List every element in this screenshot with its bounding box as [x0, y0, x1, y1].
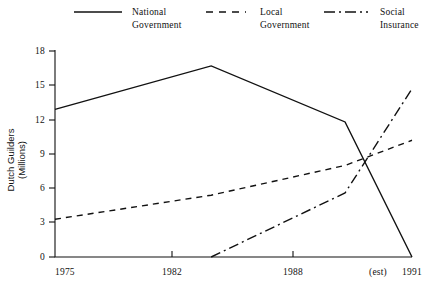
series-line-national-government	[55, 66, 412, 257]
y-axis-ticks: 18 15 12 9 6 3 0	[35, 46, 55, 262]
series-line-social-insurance	[211, 89, 412, 257]
y-tick-label: 6	[40, 183, 45, 193]
x-axis-ticks: 1975 1982 1988 (est) 1991	[55, 251, 422, 278]
y-tick-label: 0	[40, 252, 45, 262]
x-tick-label: 1988	[283, 267, 303, 277]
y-axis-title-line2: (Millions)	[16, 141, 27, 179]
chart-series-group	[55, 66, 412, 257]
y-tick-label: 9	[40, 149, 45, 159]
chart-plot-area: Dutch Guilders (Millions) 18 15 12 9 6 3…	[0, 0, 426, 286]
x-axis-est-note: (est)	[369, 267, 387, 278]
y-tick-label: 12	[35, 115, 45, 125]
y-tick-label: 18	[35, 46, 45, 56]
axis-lines	[55, 50, 412, 257]
y-tick-label: 15	[35, 80, 45, 90]
series-line-local-government	[55, 140, 412, 219]
x-tick-label: 1982	[162, 267, 182, 277]
y-axis-title: Dutch Guilders (Millions)	[5, 128, 27, 191]
y-tick-label: 3	[40, 217, 45, 227]
y-axis-title-line1: Dutch Guilders	[5, 128, 16, 191]
x-tick-label: 1991	[402, 267, 422, 277]
chart-figure: National Government Local Government Soc…	[0, 0, 426, 286]
x-tick-label: 1975	[55, 267, 75, 277]
